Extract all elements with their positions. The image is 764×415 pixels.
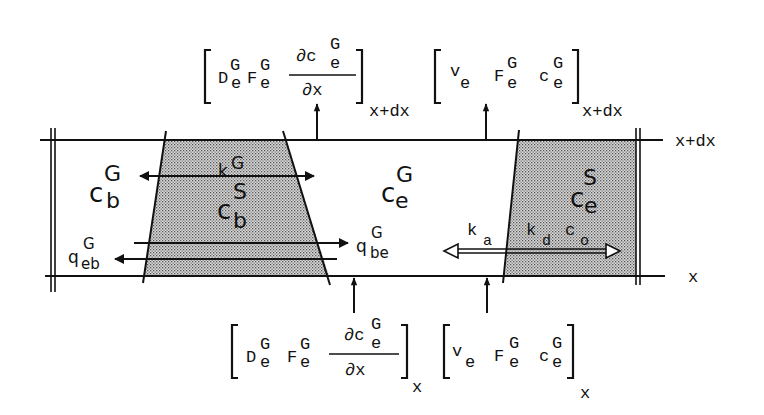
top-boundary-label: x+dx xyxy=(675,133,716,150)
bottom-boundary-label: x xyxy=(688,269,698,286)
